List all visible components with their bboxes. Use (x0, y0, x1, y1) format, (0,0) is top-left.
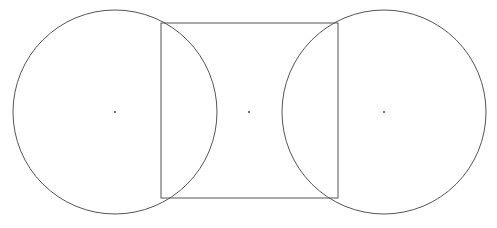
center-point-mark (383, 111, 385, 113)
center-square (161, 23, 338, 198)
center-point-mark (114, 111, 116, 113)
drawing-canvas (0, 0, 497, 228)
center-marks (114, 111, 385, 113)
center-point-mark (248, 111, 250, 113)
diagram-svg (0, 0, 497, 228)
